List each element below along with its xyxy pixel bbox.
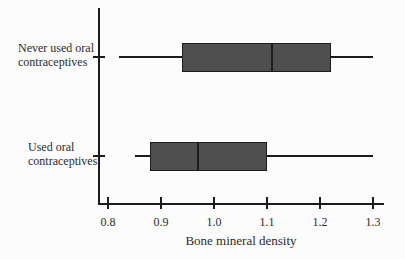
x-axis-title: Bone mineral density <box>141 233 341 248</box>
x-tick-label: 0.8 <box>93 215 123 229</box>
category-label: Used oral contraceptives <box>28 140 97 168</box>
x-tick-label: 1.2 <box>305 215 335 229</box>
x-tick-label: 0.9 <box>146 215 176 229</box>
plot-area: Bone mineral density 0.80.91.01.11.21.3N… <box>0 0 405 259</box>
x-axis-tick <box>266 197 268 209</box>
category-label: Never used oral contraceptives <box>18 41 94 69</box>
x-tick-label: 1.3 <box>358 215 388 229</box>
x-axis-tick <box>372 197 374 209</box>
y-axis-line <box>98 8 100 205</box>
median-line <box>271 43 273 72</box>
x-axis-tick <box>213 197 215 209</box>
x-axis-tick <box>160 197 162 209</box>
boxplot-box <box>182 43 330 72</box>
boxplot-figure: Bone mineral density 0.80.91.01.11.21.3N… <box>0 0 405 259</box>
x-tick-label: 1.0 <box>199 215 229 229</box>
boxplot-box <box>150 142 267 171</box>
x-tick-label: 1.1 <box>252 215 282 229</box>
x-axis-tick <box>107 197 109 209</box>
x-axis-tick <box>319 197 321 209</box>
median-line <box>197 142 199 171</box>
x-axis-line <box>98 203 384 205</box>
category-tick <box>93 56 105 58</box>
